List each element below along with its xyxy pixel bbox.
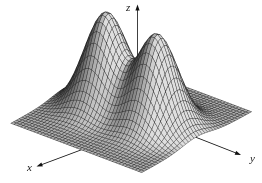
x-axis-label: x <box>27 162 32 173</box>
y-axis-label: y <box>250 153 255 164</box>
z-axis-label: z <box>126 2 130 13</box>
figure-two-peak-surface: z x y <box>0 0 262 183</box>
surface-mesh-canvas <box>0 0 262 183</box>
